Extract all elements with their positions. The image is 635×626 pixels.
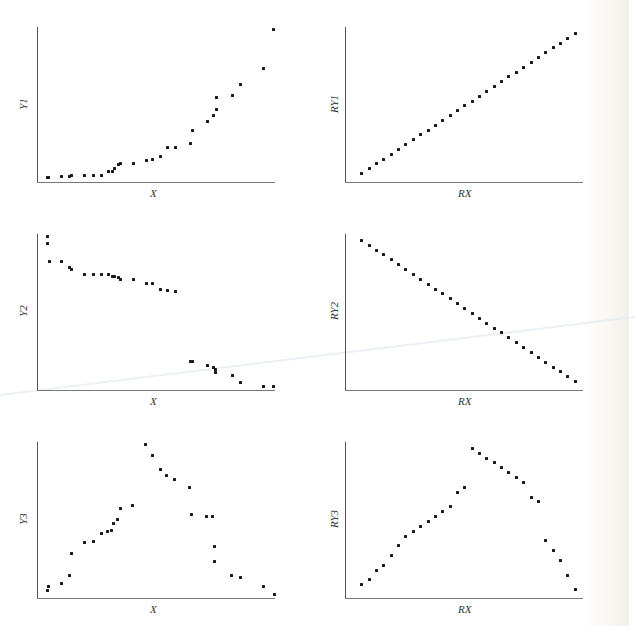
y-axis-line: [345, 234, 346, 390]
data-point: [159, 468, 162, 471]
data-point: [70, 268, 73, 271]
y-axis-line: [37, 234, 38, 390]
data-point: [100, 174, 103, 177]
data-point: [191, 129, 194, 132]
data-point: [456, 491, 459, 494]
data-point: [500, 466, 503, 469]
data-point: [151, 454, 154, 457]
data-point: [559, 559, 562, 562]
x-axis-line: [345, 390, 583, 391]
y-axis-label: RY1: [328, 94, 340, 112]
data-point: [515, 476, 518, 479]
data-point: [456, 109, 459, 112]
data-point: [566, 574, 569, 577]
data-point: [530, 351, 533, 354]
data-point: [441, 510, 444, 513]
data-point: [132, 162, 135, 165]
data-point: [375, 162, 378, 165]
data-point: [412, 530, 415, 533]
x-axis-label: X: [150, 187, 157, 199]
data-point: [70, 552, 73, 555]
data-point: [530, 496, 533, 499]
data-point: [397, 544, 400, 547]
data-point: [360, 239, 363, 242]
scatter-plot-y3-vs-x: [37, 442, 275, 598]
data-point: [471, 312, 474, 315]
data-point: [191, 360, 194, 363]
data-point: [515, 71, 518, 74]
data-point: [272, 28, 275, 31]
data-point: [166, 289, 169, 292]
data-point: [116, 518, 119, 521]
data-point: [544, 361, 547, 364]
data-point: [382, 253, 385, 256]
data-point: [368, 578, 371, 581]
data-point: [419, 525, 422, 528]
data-point: [390, 258, 393, 261]
y-axis-line: [345, 442, 346, 598]
data-point: [145, 159, 148, 162]
data-point: [273, 593, 276, 596]
data-point: [151, 158, 154, 161]
data-point: [46, 235, 49, 238]
data-point: [110, 529, 113, 532]
data-point: [507, 471, 510, 474]
data-point: [500, 80, 503, 83]
data-point: [485, 322, 488, 325]
data-point: [188, 486, 191, 489]
data-point: [404, 535, 407, 538]
data-point: [375, 569, 378, 572]
page-edge-shading: [579, 0, 629, 626]
data-point: [206, 120, 209, 123]
x-axis-label: X: [150, 395, 157, 407]
data-point: [119, 162, 122, 165]
data-point: [92, 540, 95, 543]
x-axis-line: [345, 598, 583, 599]
data-point: [231, 94, 234, 97]
y-axis-label: Y2: [17, 305, 29, 317]
data-point: [478, 452, 481, 455]
data-point: [507, 336, 510, 339]
data-point: [478, 317, 481, 320]
x-axis-line: [37, 598, 275, 599]
data-point: [485, 90, 488, 93]
data-point: [537, 500, 540, 503]
data-point: [262, 585, 265, 588]
data-point: [382, 158, 385, 161]
data-point: [131, 504, 134, 507]
data-point: [419, 278, 422, 281]
data-point: [106, 530, 109, 533]
data-point: [566, 375, 569, 378]
data-point: [159, 155, 162, 158]
data-point: [441, 119, 444, 122]
data-point: [404, 143, 407, 146]
data-point: [107, 170, 110, 173]
data-point: [559, 42, 562, 45]
data-point: [427, 520, 430, 523]
data-point: [174, 146, 177, 149]
y-axis-line: [37, 27, 38, 182]
data-point: [145, 282, 148, 285]
data-point: [174, 290, 177, 293]
data-point: [239, 83, 242, 86]
scatter-plot-ry3-vs-rx: [345, 442, 583, 598]
data-point: [530, 61, 533, 64]
data-point: [189, 142, 192, 145]
data-point: [46, 242, 49, 245]
data-point: [412, 273, 415, 276]
data-point: [360, 172, 363, 175]
data-point: [70, 174, 73, 177]
data-point: [544, 539, 547, 542]
data-point: [566, 37, 569, 40]
scatter-plot-y1-vs-x: [37, 27, 275, 182]
x-axis-label: RX: [458, 187, 471, 199]
data-point: [463, 104, 466, 107]
scatter-plot-ry2-vs-rx: [345, 234, 583, 390]
data-point: [471, 447, 474, 450]
data-point: [390, 153, 393, 156]
data-point: [211, 515, 214, 518]
data-point: [92, 174, 95, 177]
data-point: [552, 366, 555, 369]
data-point: [449, 297, 452, 300]
data-point: [559, 370, 562, 373]
